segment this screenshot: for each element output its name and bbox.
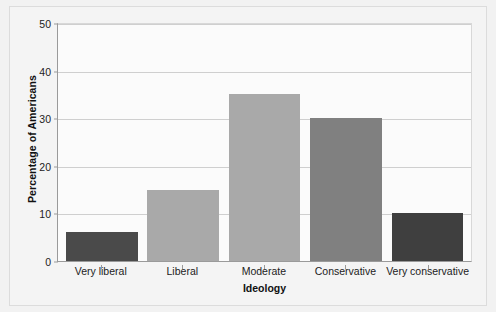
bar-series xyxy=(58,24,471,261)
bar-slot xyxy=(142,24,223,261)
x-axis-tick-mark xyxy=(264,265,265,269)
x-axis-tick-mark xyxy=(101,265,102,269)
bar-slot xyxy=(224,24,305,261)
x-axis-tick-label: Conservative xyxy=(305,265,387,277)
x-axis-tick-label: Very conservative xyxy=(386,265,469,277)
y-axis-tick-label: 10 xyxy=(39,208,51,220)
bar[interactable] xyxy=(147,190,219,261)
y-axis-tick-label: 40 xyxy=(39,66,51,78)
y-axis-tick-mark xyxy=(54,262,58,263)
bar[interactable] xyxy=(66,232,138,261)
x-axis-title: Ideology xyxy=(57,282,472,294)
bar[interactable] xyxy=(229,94,301,261)
chart-figure: Percentage of Americans 01020304050 Very… xyxy=(0,0,496,312)
x-axis-tick-label: Liberal xyxy=(142,265,224,277)
x-axis-tick-mark xyxy=(345,265,346,269)
x-axis-tick-labels: Very liberalLiberalModerateConservativeV… xyxy=(57,265,472,277)
x-axis-tick-mark xyxy=(428,265,429,269)
bar[interactable] xyxy=(310,118,382,261)
bar-slot xyxy=(387,24,468,261)
y-axis-tick-label: 0 xyxy=(45,256,51,268)
bar-slot xyxy=(305,24,386,261)
x-axis-tick-label: Very liberal xyxy=(60,265,142,277)
bar[interactable] xyxy=(392,213,464,261)
y-axis-tick-label: 20 xyxy=(39,161,51,173)
plot-area: 01020304050 xyxy=(57,23,472,262)
x-axis-tick-label: Moderate xyxy=(223,265,305,277)
bar-slot xyxy=(61,24,142,261)
y-axis-title: Percentage of Americans xyxy=(26,44,38,234)
y-axis-tick-label: 50 xyxy=(39,18,51,30)
x-axis-tick-mark xyxy=(182,265,183,269)
y-axis-tick-label: 30 xyxy=(39,113,51,125)
